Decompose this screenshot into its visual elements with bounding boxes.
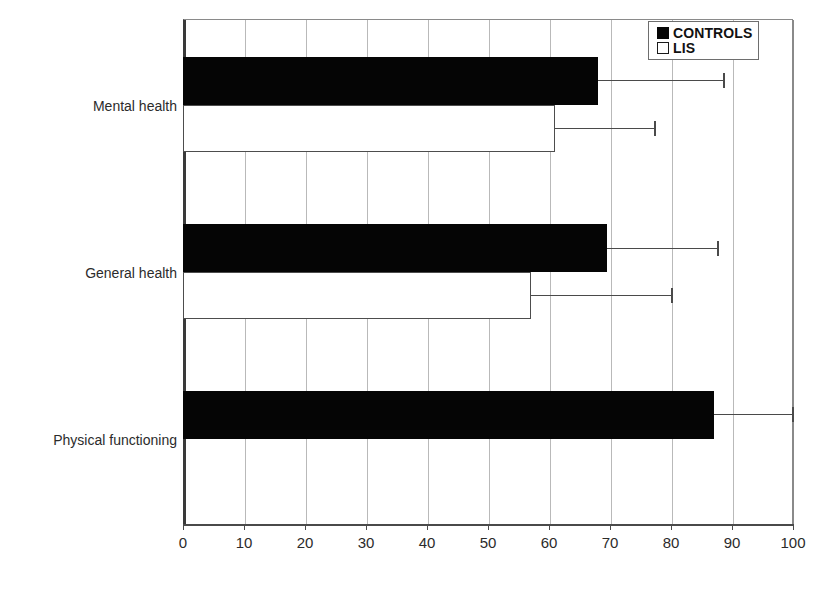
x-tick-20 bbox=[305, 524, 306, 530]
bar-controls-mental-health bbox=[183, 57, 598, 105]
x-tick-label-80: 80 bbox=[663, 534, 680, 551]
x-tick-label-90: 90 bbox=[724, 534, 741, 551]
errorbar-line-lis-general-health bbox=[531, 295, 672, 296]
legend-item-controls: CONTROLS bbox=[657, 25, 752, 40]
errorbar-line-controls-general-health bbox=[607, 248, 718, 249]
errorbar-cap-controls-mental-health bbox=[723, 73, 725, 88]
category-label-physical-functioning: Physical functioning bbox=[53, 432, 177, 448]
legend-item-lis: LIS bbox=[657, 40, 752, 55]
x-tick-label-10: 10 bbox=[236, 534, 253, 551]
errorbar-cap-lis-mental-health bbox=[654, 121, 656, 136]
bar-lis-general-health bbox=[183, 272, 531, 319]
gridline-100 bbox=[793, 20, 794, 524]
x-tick-label-0: 0 bbox=[179, 534, 187, 551]
x-tick-label-30: 30 bbox=[358, 534, 375, 551]
x-tick-label-40: 40 bbox=[419, 534, 436, 551]
legend-label-controls: CONTROLS bbox=[673, 25, 752, 41]
x-tick-0 bbox=[183, 524, 184, 530]
errorbar-line-controls-mental-health bbox=[598, 80, 724, 81]
x-tick-70 bbox=[610, 524, 611, 530]
x-tick-80 bbox=[671, 524, 672, 530]
gridline-80 bbox=[672, 20, 673, 524]
x-tick-label-60: 60 bbox=[541, 534, 558, 551]
chart-legend: CONTROLS LIS bbox=[648, 21, 759, 60]
x-tick-100 bbox=[793, 524, 794, 530]
bar-controls-general-health bbox=[183, 224, 607, 272]
x-tick-label-70: 70 bbox=[602, 534, 619, 551]
x-tick-label-100: 100 bbox=[780, 534, 805, 551]
hollow-square-icon bbox=[657, 42, 669, 54]
x-tick-label-20: 20 bbox=[297, 534, 314, 551]
gridline-90 bbox=[733, 20, 734, 524]
category-label-mental-health: Mental health bbox=[93, 98, 177, 114]
x-tick-60 bbox=[549, 524, 550, 530]
errorbar-line-controls-physical-functioning bbox=[714, 414, 794, 415]
bar-controls-physical-functioning bbox=[183, 391, 714, 439]
x-tick-30 bbox=[366, 524, 367, 530]
legend-label-lis: LIS bbox=[673, 40, 695, 56]
x-tick-90 bbox=[732, 524, 733, 530]
chart-container: Mental health General health Physical fu… bbox=[0, 0, 823, 589]
errorbar-cap-lis-general-health bbox=[671, 288, 673, 303]
errorbar-line-lis-mental-health bbox=[555, 128, 655, 129]
errorbar-cap-controls-general-health bbox=[717, 241, 719, 256]
errorbar-cap-controls-physical-functioning bbox=[792, 407, 794, 422]
x-tick-40 bbox=[427, 524, 428, 530]
x-tick-label-50: 50 bbox=[480, 534, 497, 551]
category-label-general-health: General health bbox=[85, 265, 177, 281]
x-tick-10 bbox=[244, 524, 245, 530]
bar-lis-mental-health bbox=[183, 105, 555, 152]
filled-square-icon bbox=[657, 27, 669, 39]
gridline-70 bbox=[611, 20, 612, 524]
x-tick-50 bbox=[488, 524, 489, 530]
